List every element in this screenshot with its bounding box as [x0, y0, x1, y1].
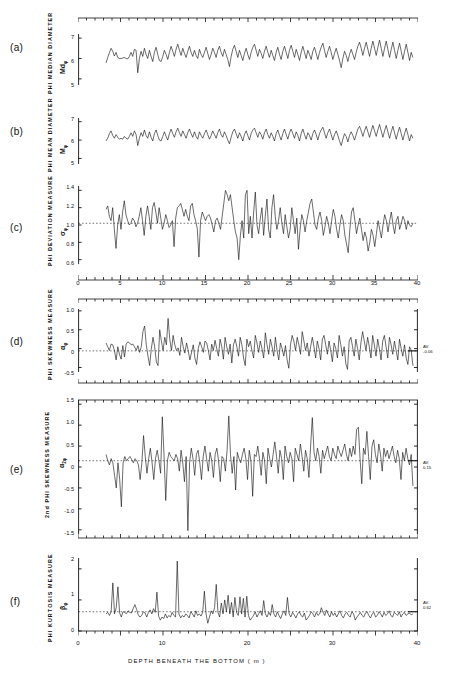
panel-f-ytick-0: 2 [58, 556, 74, 562]
mid-xtick-1: 5 [112, 280, 128, 286]
panel-c-ytick-1: 1.2 [56, 203, 74, 209]
panel-e-ytick-5: -1.0 [54, 508, 74, 514]
panel-a-ytitle: PHI MEDIAN DIAMETER [47, 12, 53, 94]
bottom-xaxis: 0 10 20 30 40 DEPTH BENEATH THE BOTTOM (… [78, 640, 418, 680]
mid-xtick-6: 30 [324, 280, 340, 286]
panel-f-plot [78, 552, 418, 644]
panel-e-plot [78, 398, 418, 540]
panel-f: (f) PHI KURTOSIS MEASURE βφ 2 1 0 AV. 0.… [0, 552, 450, 652]
panel-b-ysymbol: Mφ [59, 145, 68, 154]
mid-xtick-7: 35 [366, 280, 382, 286]
panel-c-ytick-3: 0.8 [56, 241, 74, 247]
panel-d-ytick-0: 1.0 [56, 307, 74, 313]
panel-b-ytitle: PHI MEAN DIAMETER [47, 97, 53, 172]
panel-d-ytick-3: -0.5 [54, 370, 74, 376]
mid-xtick-5: 25 [281, 280, 297, 286]
panel-d: (d) PHI SKEWNESS MEASURE αφ 1.0 0.5 0 -0… [0, 296, 450, 388]
mid-xaxis: 0 5 10 15 20 25 30 35 40 [78, 268, 418, 290]
panel-e-ysymbol-sub: 2φ [62, 458, 67, 464]
panel-d-ytitle: PHI SKEWNESS MEASURE [47, 288, 53, 380]
panel-b-ytick-2: 5 [60, 160, 74, 166]
panel-a-ytick-1: 6 [60, 58, 74, 64]
panel-f-ysymbol: βφ [59, 602, 68, 610]
xaxis-title: DEPTH BENEATH THE BOTTOM ( m ) [128, 658, 266, 664]
panel-e-ytick-4: -0.5 [54, 486, 74, 492]
panel-d-average-note: AV. -0.06 [423, 344, 433, 355]
panel-d-ytick-2: 0 [56, 349, 74, 355]
panel-e-ytick-0: 1.5 [56, 397, 74, 403]
panel-e-svg [78, 398, 418, 540]
panel-c-ysymbol-sub: φ [63, 228, 68, 231]
panel-f-av-value: 0.62 [423, 605, 431, 610]
panel-c-ytick-4: 0.6 [56, 260, 74, 266]
panel-e-ytick-6: -1.5 [54, 530, 74, 536]
panel-b-ytick-1: 6 [60, 138, 74, 144]
panel-f-average-note: AV. 0.62 [423, 600, 431, 611]
mid-xtick-8: 40 [409, 280, 425, 286]
panel-f-svg [78, 552, 418, 644]
panel-b-ytick-0: 7 [60, 116, 74, 122]
panel-a-ysymbol-base: Md [59, 64, 66, 74]
panel-e-ytick-1: 1.0 [56, 419, 74, 425]
bottom-xtick-4: 40 [409, 640, 425, 646]
mid-xtick-3: 15 [196, 280, 212, 286]
panel-e: (e) 2nd PHI SKEWNESS MEASURE α2φ 1.5 1.0… [0, 398, 450, 544]
bottom-xtick-1: 10 [154, 640, 170, 646]
panel-e-average-note: AV. 0.15 [423, 460, 431, 471]
mid-xtick-0: 0 [70, 280, 86, 286]
panel-e-av-value: 0.15 [423, 465, 431, 470]
panel-c-ytitle: PHI DEVIATION MEASURE [47, 175, 53, 266]
panel-e-ytitle: 2nd PHI SKEWNESS MEASURE [44, 411, 50, 518]
panel-c-ysymbol: σφ [59, 228, 68, 236]
panel-b: (b) PHI MEAN DIAMETER Mφ 7 6 5 [0, 98, 450, 178]
panel-e-ytick-2: 0.5 [56, 442, 74, 448]
panel-a-svg [78, 10, 418, 98]
panel-d-ytick-1: 0.5 [56, 328, 74, 334]
panel-c-ytick-2: 1.0 [56, 222, 74, 228]
panel-d-ysymbol-sub: φ [63, 342, 68, 345]
panel-f-ytick-2: 0 [58, 627, 74, 633]
bottom-xtick-2: 20 [239, 640, 255, 646]
panel-a: (a) PHI MEDIAN DIAMETER Mdφ 7 6 5 [0, 10, 450, 98]
panel-b-svg [78, 98, 418, 176]
panel-d-plot [78, 296, 418, 386]
panel-b-letter: (b) [10, 126, 23, 137]
panel-a-letter: (a) [10, 42, 23, 53]
panel-d-svg [78, 296, 418, 386]
panel-a-plot [78, 10, 418, 98]
panel-c-ytick-0: 1.4 [56, 184, 74, 190]
panel-a-ytick-0: 7 [60, 34, 74, 40]
panel-c-ysymbol-base: σ [59, 231, 66, 236]
panel-f-ytitle: PHI KURTOSIS MEASURE [47, 553, 53, 642]
panel-b-ysymbol-sub: φ [63, 145, 68, 148]
panel-f-letter: (f) [10, 596, 20, 607]
panel-e-letter: (e) [10, 464, 23, 475]
panel-f-ytick-1: 1 [58, 591, 74, 597]
figure-root: (a) PHI MEDIAN DIAMETER Mdφ 7 6 5 (b) PH… [0, 0, 450, 685]
panel-b-ysymbol-base: M [59, 148, 66, 154]
panel-b-plot [78, 98, 418, 176]
mid-xtick-4: 20 [239, 280, 255, 286]
panel-f-ysymbol-base: β [59, 606, 66, 610]
panel-a-ytick-2: 5 [60, 82, 74, 88]
bottom-xtick-3: 30 [324, 640, 340, 646]
panel-f-ysymbol-sub: φ [63, 602, 68, 605]
panel-c-letter: (c) [10, 222, 23, 233]
mid-xtick-2: 10 [154, 280, 170, 286]
panel-d-av-value: -0.06 [423, 349, 433, 354]
panel-e-ytick-3: 0 [56, 464, 74, 470]
panel-d-letter: (d) [10, 336, 23, 347]
bottom-xtick-0: 0 [70, 640, 86, 646]
